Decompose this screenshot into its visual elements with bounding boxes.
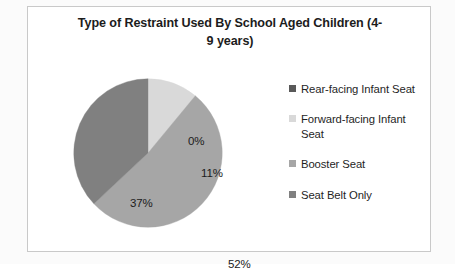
legend-item-forward-facing-infant-seat[interactable]: Forward-facing Infant Seat bbox=[289, 112, 429, 141]
legend-swatch-icon bbox=[289, 160, 296, 167]
legend-swatch-icon bbox=[289, 115, 296, 122]
legend-item-label: Rear-facing Infant Seat bbox=[301, 82, 415, 96]
pie-data-label-forward-facing-infant-seat: 11% bbox=[201, 167, 223, 179]
pie-data-label-booster-seat: 52% bbox=[228, 258, 251, 270]
chart-legend: Rear-facing Infant Seat Forward-facing I… bbox=[289, 82, 429, 218]
legend-item-label: Booster Seat bbox=[301, 157, 365, 171]
pie-data-label-seat-belt-only: 37% bbox=[130, 197, 153, 209]
legend-item-booster-seat[interactable]: Booster Seat bbox=[289, 157, 429, 171]
legend-item-label: Seat Belt Only bbox=[301, 188, 372, 202]
pie-data-label-rear-facing-infant-seat: 0% bbox=[188, 135, 204, 147]
plot-area: 0% 11% 52% 37% Rear-facing Infant Seat F… bbox=[27, 6, 431, 252]
legend-item-seat-belt-only[interactable]: Seat Belt Only bbox=[289, 188, 429, 202]
legend-item-rear-facing-infant-seat[interactable]: Rear-facing Infant Seat bbox=[289, 82, 429, 96]
pie-chart: 0% 11% 52% 37% bbox=[73, 78, 223, 228]
legend-swatch-icon bbox=[289, 191, 296, 198]
legend-swatch-icon bbox=[289, 85, 296, 92]
legend-item-label: Forward-facing Infant Seat bbox=[301, 112, 429, 141]
